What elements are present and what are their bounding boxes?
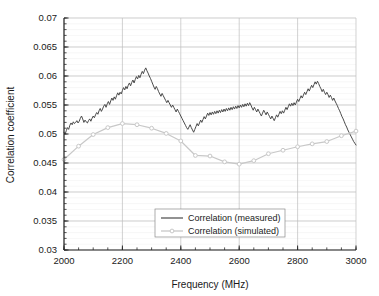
series-simulated-marker: [340, 134, 344, 138]
y-axis-title: Correlation coefficient: [5, 87, 16, 184]
y-tick-label: 0.045: [33, 157, 57, 168]
series-simulated-marker: [325, 140, 329, 144]
y-tick-label: 0.065: [33, 41, 57, 52]
y-tick-label: 0.05: [39, 128, 58, 139]
series-simulated-marker: [223, 160, 227, 164]
correlation-line-chart: 200022002400260028003000 0.030.0350.040.…: [0, 0, 379, 296]
series-simulated-marker: [106, 126, 110, 130]
y-tick-label: 0.055: [33, 99, 57, 110]
y-tick-label: 0.03: [39, 244, 58, 255]
series-simulated-marker: [296, 145, 300, 149]
series-simulated-marker: [121, 122, 125, 126]
series-simulated-marker: [164, 132, 168, 136]
series-simulated-marker: [77, 144, 81, 148]
x-tick-label: 2800: [287, 255, 308, 266]
series-simulated-marker: [267, 152, 271, 156]
y-tick-label: 0.035: [33, 215, 57, 226]
x-axis-title: Frequency (MHz): [171, 279, 248, 290]
series-simulated-marker: [208, 154, 212, 158]
chart-figure: 200022002400260028003000 0.030.0350.040.…: [0, 0, 379, 296]
series-simulated-marker: [310, 142, 314, 146]
series-simulated-marker: [252, 159, 256, 163]
series-simulated-marker: [281, 148, 285, 152]
legend-marker-simulated: [170, 229, 174, 233]
series-simulated-marker: [135, 123, 139, 127]
series-simulated-marker: [91, 133, 95, 137]
x-tick-label: 2000: [53, 255, 74, 266]
x-tick-label: 2600: [229, 255, 250, 266]
series-simulated-marker: [179, 139, 183, 143]
x-tick-label: 2200: [112, 255, 133, 266]
series-simulated-marker: [150, 126, 154, 130]
series-simulated-marker: [237, 162, 241, 166]
y-tick-label: 0.04: [39, 186, 58, 197]
y-tick-label: 0.07: [39, 12, 58, 23]
x-tick-label: 3000: [345, 255, 366, 266]
x-tick-label: 2400: [170, 255, 191, 266]
legend-label-measured: Correlation (measured): [188, 213, 281, 223]
y-tick-label: 0.06: [39, 70, 58, 81]
legend-label-simulated: Correlation (simulated): [188, 226, 279, 236]
series-simulated-marker: [354, 129, 358, 133]
chart-legend[interactable]: Correlation (measured)Correlation (simul…: [155, 209, 285, 237]
series-simulated-marker: [194, 154, 198, 158]
